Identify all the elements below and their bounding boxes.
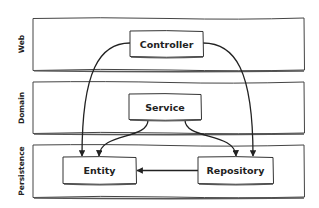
component-label-service: Service: [145, 102, 185, 113]
arrow-controller-to-entity: [82, 43, 130, 156]
component-label-entity: Entity: [84, 165, 117, 176]
layer-label-web: Web: [17, 34, 26, 53]
layer-label-domain: Domain: [17, 92, 26, 124]
component-entity: Entity: [63, 157, 137, 185]
arrow-service-to-entity: [99, 120, 148, 156]
layer-label-persistence: Persistence: [17, 146, 26, 195]
component-controller: Controller: [130, 31, 204, 58]
arrow-service-to-repository: [185, 120, 236, 156]
component-repository: Repository: [198, 157, 274, 185]
arrow-controller-to-repository: [203, 43, 253, 156]
component-service: Service: [129, 94, 202, 121]
layered-architecture-diagram: Web Domain Persistence Controller Servic…: [0, 0, 319, 208]
component-label-repository: Repository: [207, 165, 266, 176]
component-label-controller: Controller: [140, 39, 194, 50]
